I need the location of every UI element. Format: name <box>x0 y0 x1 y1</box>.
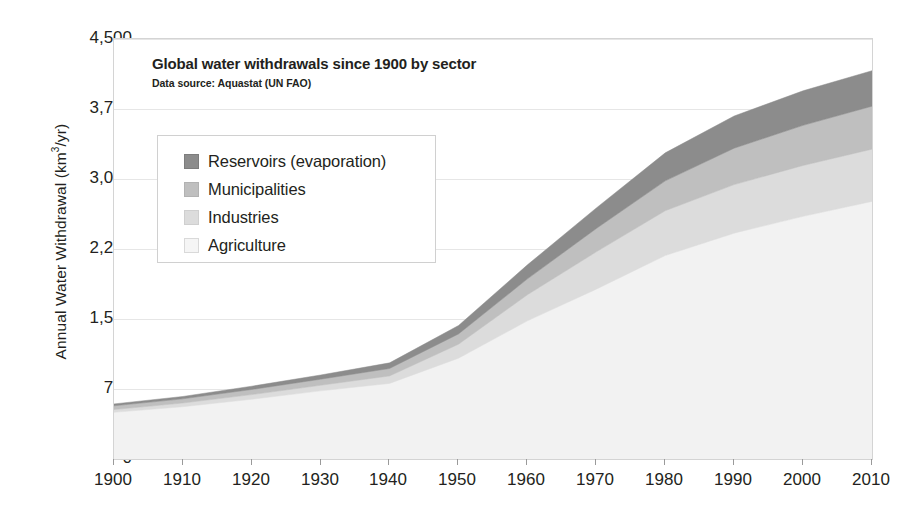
chart-figure: Annual Water Withdrawal (km3/yr) 4,500 3… <box>0 0 910 517</box>
x-tick-mark <box>733 459 734 465</box>
x-tick-mark <box>251 459 252 465</box>
x-tick-mark <box>871 459 872 465</box>
x-tick-label: 1920 <box>232 470 270 490</box>
legend-item-label: Industries <box>208 208 279 227</box>
legend-swatch-icon <box>184 210 199 225</box>
title-block: Global water withdrawals since 1900 by s… <box>152 55 572 89</box>
x-tick-label: 1940 <box>369 470 407 490</box>
legend-item-agriculture: Agriculture <box>184 231 435 259</box>
x-tick-label: 1960 <box>507 470 545 490</box>
x-tick-mark <box>320 459 321 465</box>
x-tick-mark <box>182 459 183 465</box>
legend-item-municipalities: Municipalities <box>184 175 435 203</box>
legend-swatch-icon <box>184 154 199 169</box>
x-tick-label: 2010 <box>852 470 890 490</box>
legend-item-industries: Industries <box>184 203 435 231</box>
chart-subtitle: Data source: Aquastat (UN FAO) <box>152 77 572 89</box>
legend-item-label: Reservoirs (evaporation) <box>208 152 386 171</box>
x-tick-label: 1950 <box>438 470 476 490</box>
y-axis-title: Annual Water Withdrawal (km3/yr) <box>50 32 69 452</box>
x-tick-label: 1900 <box>94 470 132 490</box>
legend-swatch-icon <box>184 238 199 253</box>
x-tick-mark <box>595 459 596 465</box>
x-tick-label: 1980 <box>645 470 683 490</box>
chart-legend: Reservoirs (evaporation) Municipalities … <box>157 135 436 263</box>
x-tick-label: 2000 <box>783 470 821 490</box>
x-tick-label: 1910 <box>163 470 201 490</box>
legend-item-label: Agriculture <box>208 236 286 255</box>
x-tick-mark <box>113 459 114 465</box>
area-series-group <box>114 71 872 459</box>
x-tick-mark <box>802 459 803 465</box>
x-tick-mark <box>457 459 458 465</box>
legend-item-reservoirs: Reservoirs (evaporation) <box>184 147 435 175</box>
x-tick-mark <box>526 459 527 465</box>
x-tick-mark <box>388 459 389 465</box>
legend-swatch-icon <box>184 182 199 197</box>
chart-title: Global water withdrawals since 1900 by s… <box>152 55 572 74</box>
x-tick-label: 1990 <box>714 470 752 490</box>
x-tick-label: 1930 <box>301 470 339 490</box>
x-tick-label: 1970 <box>576 470 614 490</box>
x-tick-mark <box>664 459 665 465</box>
legend-item-label: Municipalities <box>208 180 306 199</box>
